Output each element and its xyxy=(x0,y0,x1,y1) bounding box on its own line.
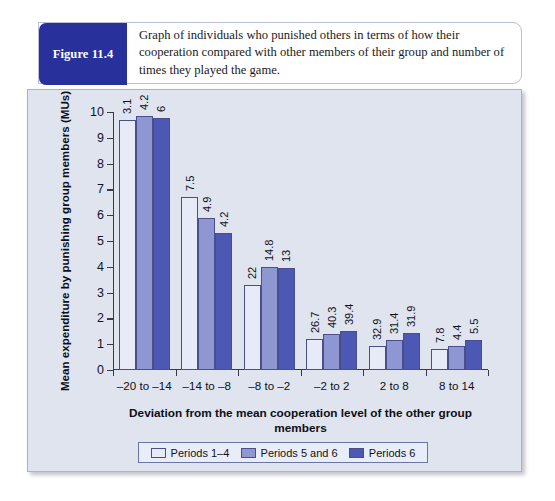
bar[interactable] xyxy=(448,346,465,371)
bar[interactable] xyxy=(244,285,261,370)
bar-slot: 39.4 xyxy=(340,112,357,370)
y-axis-tick-label: 6 xyxy=(97,208,104,222)
bar-slot: 4.2 xyxy=(215,112,232,370)
bar[interactable] xyxy=(215,233,232,370)
x-axis-tick xyxy=(238,370,239,376)
figure-caption-text: Graph of individuals who punished others… xyxy=(139,27,515,79)
bar-slot: 14.8 xyxy=(261,112,278,370)
bar-value-label: 13 xyxy=(280,250,292,262)
bar[interactable] xyxy=(369,346,386,371)
y-axis-title-text: Mean expenditure by punishing group memb… xyxy=(58,91,72,391)
bar[interactable] xyxy=(431,349,448,370)
bar[interactable] xyxy=(261,267,278,370)
y-axis-tick-label: 3 xyxy=(97,286,104,300)
legend-label: Periods 1–4 xyxy=(171,447,230,459)
x-axis-tick xyxy=(488,370,489,376)
legend-item[interactable]: Periods 1–4 xyxy=(151,447,230,459)
bar-slot: 13 xyxy=(278,112,295,370)
bar-value-label: 26.7 xyxy=(308,312,320,333)
x-axis-tick xyxy=(113,370,114,376)
y-axis-tick-label: 9 xyxy=(97,131,104,145)
chart-panel: Mean expenditure by punishing group memb… xyxy=(27,89,522,472)
y-axis-tick-label: 0 xyxy=(97,363,104,377)
bar-value-label: 4.4 xyxy=(450,324,462,339)
bar-slot: 6 xyxy=(153,112,170,370)
y-axis-tick-label: 5 xyxy=(97,234,104,248)
bar[interactable] xyxy=(198,218,215,370)
bar-value-label: 4.2 xyxy=(217,212,229,227)
x-axis-tick-label: –2 to 2 xyxy=(314,379,349,392)
bar-value-label: 5.5 xyxy=(467,319,479,334)
x-axis-tick xyxy=(176,370,177,376)
legend-swatch-icon xyxy=(241,448,256,458)
x-axis-tick-label: 8 to 14 xyxy=(439,379,474,392)
x-axis-tick xyxy=(301,370,302,376)
bar-slot: 3.1 xyxy=(119,112,136,370)
y-axis-tick-label: 8 xyxy=(97,157,104,171)
bar[interactable] xyxy=(340,331,357,370)
bar-slot: 4.2 xyxy=(136,112,153,370)
y-axis-title: Mean expenditure by punishing group memb… xyxy=(42,112,88,370)
bar[interactable] xyxy=(323,334,340,370)
legend-label: Periods 6 xyxy=(369,447,415,459)
bar-group: 32.931.431.9 xyxy=(363,112,426,370)
plot-area: 012345678910 3.14.26–20 to –147.54.94.2–… xyxy=(113,112,488,370)
x-axis-tick-label: –14 to –8 xyxy=(183,379,231,392)
caption-card: Figure 11.4 Graph of individuals who pun… xyxy=(38,22,522,84)
bar[interactable] xyxy=(306,339,323,370)
y-axis-tick-label: 7 xyxy=(97,182,104,196)
legend-swatch-icon xyxy=(349,448,364,458)
x-axis-tick-label: 2 to 8 xyxy=(380,379,409,392)
bar-value-label: 31.9 xyxy=(405,305,417,326)
bar-slot: 4.4 xyxy=(448,112,465,370)
legend-item[interactable]: Periods 6 xyxy=(349,447,415,459)
bar[interactable] xyxy=(278,268,295,370)
bar-value-label: 4.9 xyxy=(200,196,212,211)
bar[interactable] xyxy=(153,118,170,370)
bar-group: 2214.813 xyxy=(238,112,301,370)
bar-slot: 31.4 xyxy=(386,112,403,370)
chart-legend: Periods 1–4Periods 5 and 6Periods 6 xyxy=(138,442,428,463)
y-axis-tick-label: 2 xyxy=(97,311,104,325)
bar[interactable] xyxy=(465,340,482,370)
bar-value-label: 4.2 xyxy=(138,95,150,110)
x-axis-tick xyxy=(426,370,427,376)
bar[interactable] xyxy=(136,116,153,370)
legend-label: Periods 5 and 6 xyxy=(261,447,338,459)
bar-slot: 31.9 xyxy=(403,112,420,370)
figure-caption-block: Figure 11.4 Graph of individuals who pun… xyxy=(38,22,522,84)
legend-swatch-icon xyxy=(151,448,166,458)
bar[interactable] xyxy=(403,333,420,370)
bar-value-label: 7.5 xyxy=(183,176,195,191)
bar[interactable] xyxy=(181,197,198,370)
bar-value-label: 31.4 xyxy=(388,313,400,334)
figure-number-badge: Figure 11.4 xyxy=(39,23,127,85)
bar-value-label: 22 xyxy=(246,267,258,279)
bar-slot: 40.3 xyxy=(323,112,340,370)
bar-value-label: 6 xyxy=(155,106,167,112)
bar-group: 26.740.339.4 xyxy=(301,112,364,370)
x-axis-tick-label: –8 to –2 xyxy=(248,379,290,392)
bar-value-label: 3.1 xyxy=(121,98,133,113)
x-axis-title: Deviation from the mean cooperation leve… xyxy=(113,406,488,435)
bar-slot: 4.9 xyxy=(198,112,215,370)
bar[interactable] xyxy=(386,340,403,370)
bar-slot: 32.9 xyxy=(369,112,386,370)
bar-value-label: 14.8 xyxy=(263,239,275,260)
bar-group: 3.14.26 xyxy=(113,112,176,370)
legend-item[interactable]: Periods 5 and 6 xyxy=(241,447,338,459)
bar-slot: 7.5 xyxy=(181,112,198,370)
y-axis-tick-label: 10 xyxy=(90,105,104,119)
bar-value-label: 39.4 xyxy=(342,304,354,325)
y-axis-tick-label: 1 xyxy=(97,337,104,351)
bar-slot: 22 xyxy=(244,112,261,370)
x-axis-tick xyxy=(363,370,364,376)
bar[interactable] xyxy=(119,120,136,370)
bar-group: 7.54.94.2 xyxy=(176,112,239,370)
bar-group: 7.84.45.5 xyxy=(426,112,489,370)
bar-value-label: 40.3 xyxy=(325,306,337,327)
bar-slot: 5.5 xyxy=(465,112,482,370)
bar-slot: 7.8 xyxy=(431,112,448,370)
bar-slot: 26.7 xyxy=(306,112,323,370)
bar-value-label: 7.8 xyxy=(433,328,445,343)
